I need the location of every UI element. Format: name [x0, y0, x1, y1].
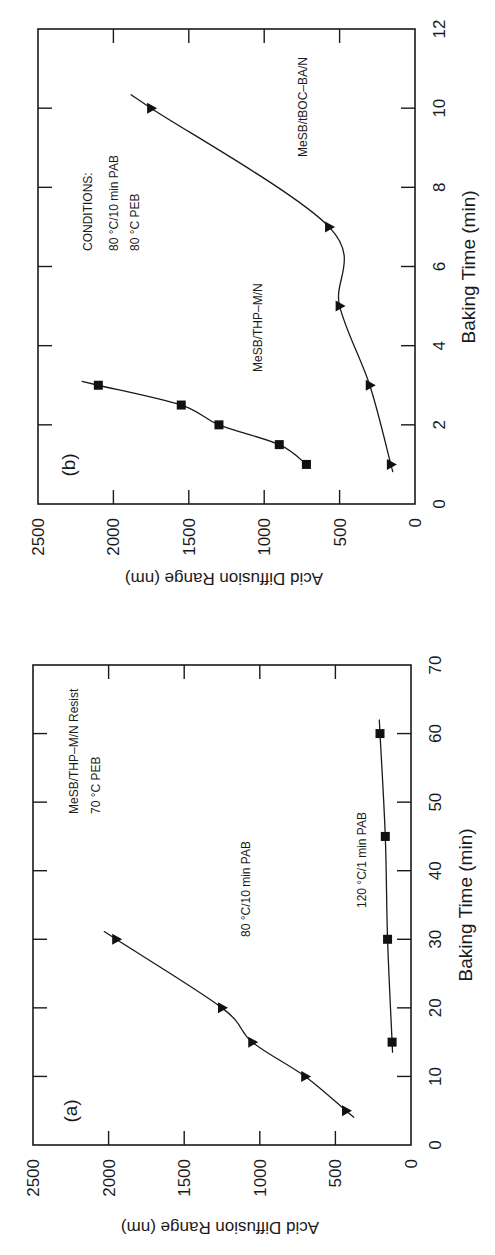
conditions-line2: 80 °C PEB — [128, 194, 142, 252]
fit-curve — [131, 95, 393, 472]
x-tick-label: 60 — [426, 724, 445, 743]
x-tick-label: 50 — [426, 793, 445, 812]
square-marker — [177, 401, 186, 410]
x-tick-label: 4 — [430, 341, 449, 350]
panel-label: (a) — [60, 1099, 81, 1122]
x-tick-label: 8 — [430, 183, 449, 192]
y-tick-label: 500 — [326, 1159, 345, 1187]
rotated-line-chart: 024681012 05001000150020002500 Baking Ti… — [0, 0, 495, 1255]
y-tick-labels: 05001000150020002500 — [29, 518, 425, 556]
square-marker — [214, 420, 223, 429]
fit-curves — [82, 95, 393, 472]
x-tick-label: 40 — [426, 861, 445, 880]
series-label-mesb-thp: MeSB/THP–M/N — [251, 283, 265, 372]
resist-annotation-line2: 70 °C PEB — [89, 757, 103, 815]
y-tick-label: 1500 — [180, 518, 199, 556]
x-axis-label: Baking Time (min) — [455, 828, 476, 981]
x-tick-labels: 010203040506070 — [426, 656, 445, 1150]
square-marker — [383, 935, 392, 944]
y-tick-label: 500 — [331, 518, 350, 546]
square-marker — [302, 460, 311, 469]
y-tick-labels: 05001000150020002500 — [24, 1159, 421, 1197]
square-marker — [94, 381, 103, 390]
y-tick-label: 2000 — [104, 518, 123, 556]
x-tick-label: 10 — [430, 99, 449, 118]
x-axis-label: Baking Time (min) — [458, 190, 479, 343]
square-marker — [381, 832, 390, 841]
fit-curve — [379, 720, 392, 1052]
y-tick-label: 0 — [406, 518, 425, 527]
panel-a: 010203040506070 05001000150020002500 Bak… — [24, 656, 476, 1237]
x-tick-label: 10 — [426, 1067, 445, 1086]
series-label-80c: 80 °C/10 min PAB — [239, 841, 253, 937]
panel-b: 024681012 05001000150020002500 Baking Ti… — [29, 20, 479, 588]
square-marker — [275, 440, 284, 449]
data-markers — [112, 729, 396, 1116]
x-tick-label: 12 — [430, 20, 449, 39]
y-tick-label: 0 — [402, 1159, 421, 1168]
y-tick-label: 2000 — [100, 1159, 119, 1197]
x-tick-label: 0 — [430, 499, 449, 508]
y-axis-label: Acid Diffusion Range (nm) — [125, 569, 323, 588]
resist-annotation-line1: MeSB/THP–M/N Resist — [67, 688, 81, 814]
triangle-marker — [325, 221, 335, 232]
axis-ticks — [38, 29, 415, 504]
panel-label: (b) — [58, 453, 79, 476]
x-tick-label: 2 — [430, 420, 449, 429]
fit-curve — [82, 381, 309, 466]
data-markers — [94, 103, 397, 470]
x-tick-label: 6 — [430, 262, 449, 271]
x-tick-labels: 024681012 — [430, 20, 449, 509]
series-label-120c: 120 °C/1 min PAB — [355, 812, 369, 908]
y-axis-label: Acid Diffusion Range (nm) — [121, 1218, 319, 1237]
y-tick-label: 2500 — [29, 518, 48, 556]
fit-curve — [104, 932, 354, 1118]
triangle-marker — [112, 934, 122, 945]
figure: 024681012 05001000150020002500 Baking Ti… — [0, 0, 495, 1255]
x-tick-label: 20 — [426, 998, 445, 1017]
x-tick-label: 30 — [426, 930, 445, 949]
x-tick-label: 0 — [426, 1140, 445, 1149]
x-tick-label: 70 — [426, 656, 445, 675]
y-tick-label: 2500 — [24, 1159, 43, 1197]
y-tick-label: 1500 — [175, 1159, 194, 1197]
triangle-marker — [147, 103, 157, 114]
y-tick-label: 1000 — [255, 518, 274, 556]
square-marker — [376, 729, 385, 738]
plot-frame — [38, 29, 415, 504]
square-marker — [388, 1038, 397, 1047]
conditions-title: CONDITIONS: — [81, 172, 95, 251]
conditions-line1: 80 °C/10 min PAB — [107, 155, 121, 251]
series-label-mesb-tboc: MeSB/tBOC–BA/N — [296, 57, 310, 157]
y-tick-label: 1000 — [251, 1159, 270, 1197]
